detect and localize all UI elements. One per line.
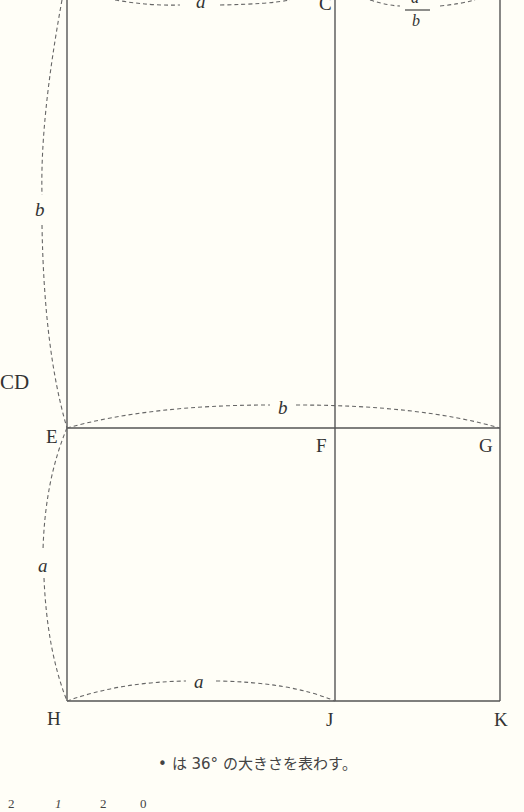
segment-label-left-a: a	[38, 556, 48, 575]
segment-label-EG-b: b	[278, 398, 288, 417]
brace-HJ-right	[216, 681, 335, 701]
brace-top-left-a-2	[220, 0, 290, 5]
point-label-F: F	[316, 436, 327, 455]
brace-top-right-2	[440, 0, 475, 6]
cut-off-text-1: 2	[8, 796, 15, 812]
brace-left-a-lower	[44, 578, 67, 701]
brace-top-right	[370, 0, 400, 6]
cut-off-text-3: 2	[100, 796, 107, 812]
brace-HJ-left	[67, 681, 186, 701]
fraction-denominator: b	[412, 13, 420, 29]
cut-off-text-2: 1	[55, 796, 62, 812]
brace-left-b-lower	[42, 225, 67, 428]
brace-left-b-upper	[42, 0, 62, 195]
point-label-J: J	[326, 710, 333, 729]
partial-label-CD: CD	[0, 372, 29, 393]
point-label-C: C	[319, 0, 332, 13]
point-label-H: H	[47, 709, 61, 728]
segment-label-HJ-a: a	[194, 672, 204, 691]
brace-EG-upper-right	[296, 405, 500, 428]
point-label-E: E	[46, 427, 58, 446]
fraction-numerator: a	[411, 0, 419, 6]
angle-note: • は 36° の大きさを表わす。	[158, 752, 357, 773]
point-label-G: G	[479, 436, 493, 455]
segment-label-left-b: b	[35, 200, 45, 219]
brace-top-left-a	[115, 0, 180, 5]
brace-EG-upper-left	[67, 405, 270, 428]
segment-label-top-a: a	[196, 0, 206, 11]
cut-off-text-4: 0	[140, 796, 147, 812]
point-label-K: K	[494, 710, 508, 729]
